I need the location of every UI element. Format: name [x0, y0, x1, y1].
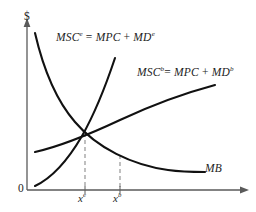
msce-prefix: MSC — [56, 31, 80, 43]
y-axis-label: $ — [24, 11, 30, 23]
mscb-suffix-sup: b — [230, 65, 234, 73]
x-tick-label-xb: xb — [113, 192, 122, 204]
xb-sup: b — [118, 191, 121, 198]
curve-label-msc-b: MSCb= MPC + MDb — [137, 66, 234, 78]
xe-sup: e — [83, 191, 86, 198]
mscb-operator: = — [164, 66, 174, 78]
mscb-suffix: MD — [212, 66, 230, 78]
curves-group — [35, 33, 215, 186]
msce-mid: MPC — [96, 31, 121, 43]
mscb-prefix: MSC — [137, 66, 161, 78]
curve-mb — [35, 33, 205, 172]
x-tick-label-xe: xe — [78, 192, 86, 204]
curve-label-mb: MB — [205, 163, 222, 175]
msce-operator: = — [83, 31, 96, 43]
mscb-plus: + — [199, 66, 212, 78]
msce-suffix-sup: e — [152, 30, 155, 38]
curve-msc-b — [35, 85, 215, 152]
mscb-mid: MPC — [174, 66, 199, 78]
dashed-guides-group — [85, 133, 120, 194]
curve-label-msc-e: MSCe = MPC + MDe — [56, 31, 155, 43]
msce-plus: + — [121, 31, 134, 43]
origin-label: 0 — [18, 183, 24, 195]
x-axis-arrowhead — [240, 187, 249, 194]
msce-suffix: MD — [133, 31, 151, 43]
